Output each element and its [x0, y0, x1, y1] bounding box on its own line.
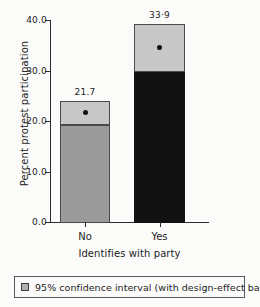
legend-label: 95% confidence interval (with design-eff… — [35, 282, 260, 293]
y-tick-label-0: 0.0 — [32, 218, 47, 227]
x-axis-title: Identifies with party — [50, 248, 209, 259]
bar-yes-fill — [134, 72, 185, 223]
x-tick-mark-no — [85, 222, 86, 227]
bar-yes-value-label: 33·9 — [130, 10, 190, 20]
y-axis-line — [50, 20, 51, 223]
x-tick-mark-yes — [160, 222, 161, 227]
bar-no-value-label: 21.7 — [55, 87, 115, 97]
y-axis-title: Percent protest participation — [19, 24, 30, 204]
x-tick-label-no: No — [55, 231, 115, 242]
chart-legend: 95% confidence interval (with design-eff… — [14, 276, 245, 298]
bar-no-point-estimate — [83, 110, 88, 115]
ci-swatch-icon — [21, 283, 29, 291]
chart-figure: 0.0 10.0 20.0 30.0 40.0 Percent protest … — [0, 0, 260, 307]
plot-area: 0.0 10.0 20.0 30.0 40.0 Percent protest … — [0, 0, 260, 268]
x-tick-label-yes: Yes — [130, 231, 190, 242]
bar-yes-point-estimate — [157, 45, 162, 50]
bar-no-fill — [60, 125, 110, 223]
